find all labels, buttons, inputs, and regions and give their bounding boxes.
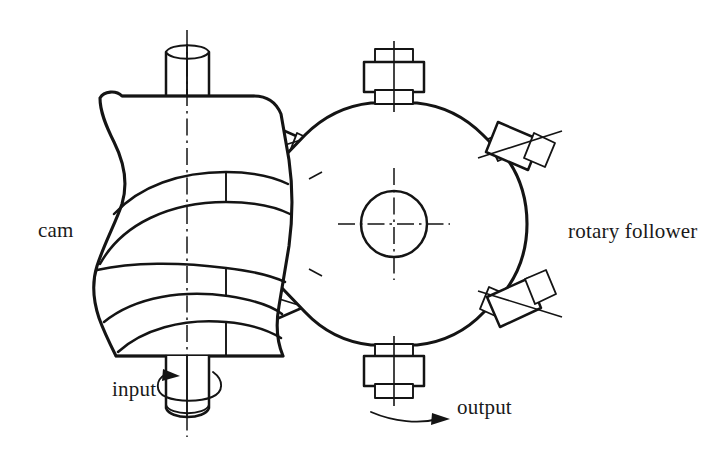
label-cam: cam: [38, 218, 74, 243]
roller-follower-top: [364, 41, 424, 112]
label-input: input: [112, 377, 156, 402]
diagram-canvas: cam rotary follower input output: [0, 0, 725, 465]
input-shaft-lower: [166, 356, 209, 417]
label-output: output: [457, 395, 512, 420]
globoidal-cam-assembly: [94, 30, 292, 437]
cam-body-silhouette: [94, 92, 292, 356]
label-rotary-follower: rotary follower: [568, 219, 698, 244]
output-rotation-arrow: [371, 412, 450, 425]
